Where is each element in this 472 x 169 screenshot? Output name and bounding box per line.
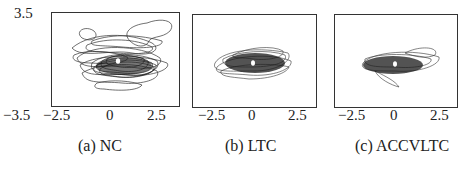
x-tick-left-c: −2.5 <box>338 108 365 123</box>
plot-nc <box>51 12 180 107</box>
x-tick-mid-a: 0 <box>106 108 114 123</box>
x-tick-mid-b: 0 <box>248 108 256 123</box>
y-tick-top: 3.5 <box>14 6 33 21</box>
x-tick-mid-c: 0 <box>390 108 398 123</box>
y-tick-bottom: −3.5 <box>3 108 30 123</box>
x-tick-right-a: 2.5 <box>147 108 166 123</box>
caption-ltc: (b) LTC <box>225 137 276 155</box>
plot-accvltc <box>334 14 458 108</box>
x-tick-left-b: −2.5 <box>198 108 225 123</box>
trajectory-ltc <box>193 15 316 107</box>
plot-ltc <box>192 14 317 108</box>
x-tick-left-a: −2.5 <box>43 108 70 123</box>
x-tick-right-b: 2.5 <box>288 108 307 123</box>
trajectory-accvltc <box>335 15 457 107</box>
caption-nc: (a) NC <box>78 137 122 155</box>
trajectory-nc <box>52 13 179 106</box>
x-tick-right-c: 2.5 <box>430 108 449 123</box>
caption-accvltc: (c) ACCVLTC <box>355 137 449 155</box>
